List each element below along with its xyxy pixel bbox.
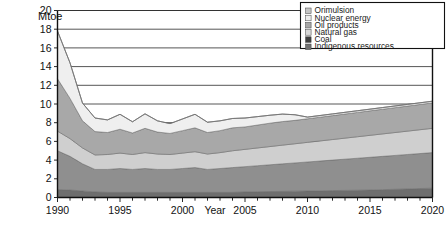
legend-swatch <box>306 44 312 50</box>
x-tick-label: 1995 <box>108 204 132 216</box>
x-tick-label: 1990 <box>46 204 70 216</box>
y-tick-label: 16 <box>40 42 52 54</box>
y-tick-label: 18 <box>40 23 52 35</box>
legend-swatch <box>306 15 312 21</box>
y-tick-label: 14 <box>40 60 52 72</box>
y-tick-label: 4 <box>46 154 52 166</box>
stacked-area-chart: 02468101214161820 1990199520002005201020… <box>0 0 448 226</box>
y-tick-label: 12 <box>40 79 52 91</box>
legend-swatch <box>306 37 312 43</box>
y-tick-label: 0 <box>46 191 52 203</box>
legend-swatch <box>306 8 312 14</box>
x-tick-label: 2015 <box>358 204 382 216</box>
y-tick-label: 8 <box>46 116 52 128</box>
y-tick-label: 2 <box>46 172 52 184</box>
legend: OrimulsionNuclear energyOil productsNatu… <box>301 3 445 52</box>
y-tick-label: 6 <box>46 135 52 147</box>
y-tick-label: 10 <box>40 98 52 110</box>
y-unit-label: Mtoe <box>38 10 62 22</box>
x-tick-label: 2000 <box>171 204 195 216</box>
legend-swatch <box>306 30 312 36</box>
x-tick-label: 2020 <box>421 204 445 216</box>
x-tick-label: 2010 <box>296 204 320 216</box>
legend-label: Indigenous resources <box>315 41 394 51</box>
x-tick-label: 2005 <box>233 204 257 216</box>
legend-swatch <box>306 22 312 28</box>
x-axis-title: Year <box>204 204 226 216</box>
